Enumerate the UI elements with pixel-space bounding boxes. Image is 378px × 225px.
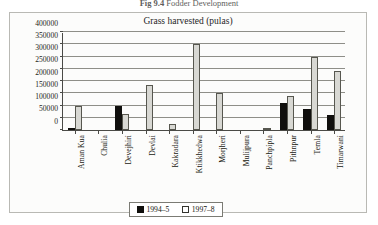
plot-area: 0500001000001500002000002500003000003500… (62, 33, 345, 131)
bar[interactable] (122, 114, 129, 130)
y-axis-tick-label: 300000 (35, 43, 58, 52)
x-axis-tick (334, 130, 335, 134)
bars-group (63, 33, 345, 130)
legend-swatch-icon-1997-8 (182, 206, 189, 213)
x-axis-tick (193, 130, 194, 134)
x-axis-label: Devlai (148, 135, 157, 156)
bar-group (87, 33, 111, 130)
x-axis-label: Temla (313, 135, 322, 154)
bar-group (63, 33, 87, 130)
bar[interactable] (311, 57, 318, 131)
legend-item-1994-5: 1994–5 (137, 205, 169, 214)
bar-group (134, 33, 158, 130)
bar-group (275, 33, 299, 130)
y-axis-tick-label: 0 (54, 117, 58, 126)
x-axis-label: Aman Kua (77, 135, 86, 169)
y-axis-tick-label: 400000 (35, 19, 58, 28)
x-axis-label: Pithnpur (289, 135, 298, 162)
y-axis-tick-label: 100000 (35, 92, 58, 101)
bar[interactable] (263, 128, 270, 130)
bar-group (252, 33, 276, 130)
legend-swatch-icon-1994-5 (137, 206, 144, 213)
x-axis-label: Panchpipla (265, 135, 274, 170)
bar-group (157, 33, 181, 130)
bar-group (299, 33, 323, 130)
x-axis-tick (122, 130, 123, 134)
y-axis-tick-label: 350000 (35, 31, 58, 40)
x-axis-label: Devejhiri (124, 135, 133, 165)
legend-item-1997-8: 1997–8 (182, 205, 214, 214)
figure-caption: Fig 9.4 Fodder Development (0, 0, 378, 8)
bar[interactable] (193, 44, 200, 130)
bar[interactable] (169, 124, 176, 130)
x-axis-tick (98, 130, 99, 134)
bar[interactable] (303, 109, 310, 130)
bar[interactable] (216, 93, 223, 130)
bar-group (110, 33, 134, 130)
bar[interactable] (146, 85, 153, 130)
x-axis-tick (146, 130, 147, 134)
y-axis-tick-label: 250000 (35, 56, 58, 65)
y-axis-tick (60, 31, 64, 32)
chart-title: Grass harvested (pulas) (10, 16, 366, 26)
x-axis-tick (216, 130, 217, 134)
figure-number: Fig 9.4 (140, 0, 165, 8)
x-axis-tick (263, 130, 264, 134)
bar[interactable] (287, 96, 294, 130)
x-axis-tick (240, 130, 241, 134)
x-axis-tick (75, 130, 76, 134)
figure-caption-text: Fodder Development (166, 0, 238, 8)
chart-legend: 1994–5 1997–8 (129, 202, 223, 217)
y-axis-tick-label: 150000 (35, 80, 58, 89)
y-axis-tick-label: 200000 (35, 68, 58, 77)
bar-group (181, 33, 205, 130)
bar-group (228, 33, 252, 130)
x-axis-label: Timarwani (336, 135, 345, 169)
x-axis-tick (311, 130, 312, 134)
x-axis-tick (287, 130, 288, 134)
chart-container: Grass harvested (pulas) 0500001000001500… (9, 12, 367, 213)
gridline (63, 31, 345, 32)
bar[interactable] (280, 103, 287, 130)
bar[interactable] (334, 71, 341, 130)
bar[interactable] (68, 128, 75, 130)
bar[interactable] (327, 115, 334, 130)
legend-label-1997-8: 1997–8 (192, 205, 215, 214)
bar[interactable] (115, 106, 122, 131)
x-axis-labels: Aman KuaChuliaDevejhiriDevlaiKakradaraKt… (62, 135, 345, 193)
x-axis-label: Mulijpura (242, 135, 251, 166)
bar[interactable] (75, 106, 82, 131)
bar-group (205, 33, 229, 130)
x-axis-label: Chulia (100, 135, 109, 156)
bar-group (322, 33, 346, 130)
x-axis-label: Ktikkhedwa (195, 135, 204, 173)
x-axis-tick (169, 130, 170, 134)
y-axis-tick-label: 50000 (39, 105, 58, 114)
x-axis-label: Morjheri (218, 135, 227, 163)
x-axis-label: Kakradara (171, 135, 180, 168)
legend-label-1994-5: 1994–5 (147, 205, 170, 214)
